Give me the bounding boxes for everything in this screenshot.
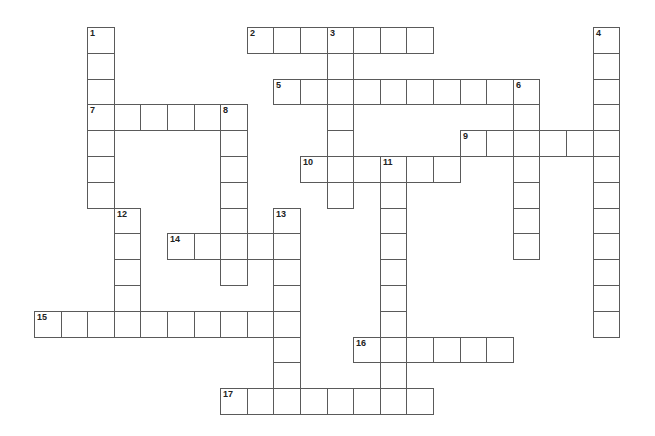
cell-letter-input[interactable] xyxy=(594,234,619,259)
crossword-cell[interactable] xyxy=(273,362,301,389)
cell-letter-input[interactable] xyxy=(88,80,114,104)
crossword-cell[interactable] xyxy=(513,104,540,131)
cell-letter-input[interactable] xyxy=(381,209,406,233)
crossword-cell[interactable]: 14 xyxy=(167,233,195,260)
crossword-cell[interactable] xyxy=(380,337,407,363)
cell-letter-input[interactable] xyxy=(434,157,460,182)
crossword-cell[interactable] xyxy=(220,130,248,157)
crossword-cell[interactable] xyxy=(433,79,461,105)
cell-letter-input[interactable] xyxy=(141,312,167,337)
cell-letter-input[interactable] xyxy=(461,338,486,362)
crossword-cell[interactable]: 12 xyxy=(114,208,141,234)
cell-letter-input[interactable] xyxy=(168,312,194,337)
crossword-cell[interactable] xyxy=(273,259,301,286)
cell-letter-input[interactable] xyxy=(381,183,406,208)
cell-letter-input[interactable] xyxy=(407,157,433,182)
crossword-cell[interactable] xyxy=(406,27,434,54)
crossword-cell[interactable] xyxy=(593,79,620,105)
crossword-cell[interactable] xyxy=(513,130,540,157)
cell-letter-input[interactable] xyxy=(354,157,380,182)
crossword-cell[interactable]: 3 xyxy=(327,27,354,54)
crossword-cell[interactable] xyxy=(380,311,407,338)
crossword-cell[interactable] xyxy=(353,156,381,183)
crossword-cell[interactable] xyxy=(167,104,195,131)
crossword-cell[interactable] xyxy=(460,79,487,105)
crossword-cell[interactable]: 9 xyxy=(460,130,487,157)
crossword-cell[interactable] xyxy=(380,233,407,260)
cell-letter-input[interactable] xyxy=(88,131,114,156)
cell-letter-input[interactable] xyxy=(301,80,327,104)
crossword-cell[interactable]: 5 xyxy=(273,79,301,105)
cell-letter-input[interactable] xyxy=(540,131,566,156)
cell-letter-input[interactable] xyxy=(381,260,406,285)
cell-letter-input[interactable] xyxy=(274,312,300,337)
crossword-cell[interactable] xyxy=(406,337,434,363)
crossword-cell[interactable] xyxy=(273,337,301,363)
crossword-cell[interactable] xyxy=(380,182,407,209)
cell-letter-input[interactable] xyxy=(221,260,247,285)
crossword-cell[interactable] xyxy=(114,285,141,312)
cell-letter-input[interactable] xyxy=(407,389,433,414)
cell-letter-input[interactable] xyxy=(514,183,539,208)
cell-letter-input[interactable] xyxy=(274,389,300,414)
crossword-cell[interactable] xyxy=(327,104,354,131)
crossword-cell[interactable] xyxy=(593,233,620,260)
crossword-cell[interactable] xyxy=(486,337,514,363)
crossword-cell[interactable] xyxy=(486,79,514,105)
cell-letter-input[interactable] xyxy=(221,105,247,130)
cell-letter-input[interactable] xyxy=(514,131,539,156)
crossword-cell[interactable]: 1 xyxy=(87,27,115,54)
crossword-cell[interactable] xyxy=(220,208,248,234)
crossword-cell[interactable] xyxy=(220,156,248,183)
crossword-cell[interactable]: 2 xyxy=(247,27,274,54)
crossword-cell[interactable] xyxy=(593,156,620,183)
crossword-cell[interactable] xyxy=(327,79,354,105)
cell-letter-input[interactable] xyxy=(434,338,460,362)
crossword-cell[interactable] xyxy=(140,104,168,131)
cell-letter-input[interactable] xyxy=(354,80,380,104)
crossword-cell[interactable] xyxy=(220,311,248,338)
crossword-cell[interactable] xyxy=(513,156,540,183)
crossword-cell[interactable] xyxy=(87,156,115,183)
cell-letter-input[interactable] xyxy=(328,183,353,208)
crossword-cell[interactable] xyxy=(327,182,354,209)
cell-letter-input[interactable] xyxy=(381,363,406,388)
crossword-cell[interactable] xyxy=(87,79,115,105)
cell-letter-input[interactable] xyxy=(221,209,247,233)
cell-letter-input[interactable] xyxy=(514,105,539,130)
crossword-cell[interactable] xyxy=(114,259,141,286)
crossword-cell[interactable] xyxy=(353,79,381,105)
crossword-cell[interactable] xyxy=(327,130,354,157)
cell-letter-input[interactable] xyxy=(115,286,140,311)
crossword-cell[interactable] xyxy=(539,130,567,157)
cell-letter-input[interactable] xyxy=(274,260,300,285)
crossword-cell[interactable] xyxy=(300,27,328,54)
crossword-cell[interactable] xyxy=(273,285,301,312)
cell-letter-input[interactable] xyxy=(594,312,619,337)
cell-letter-input[interactable] xyxy=(487,131,513,156)
crossword-cell[interactable] xyxy=(327,53,354,80)
cell-letter-input[interactable] xyxy=(221,234,247,259)
crossword-cell[interactable] xyxy=(273,233,301,260)
crossword-cell[interactable] xyxy=(513,182,540,209)
crossword-cell[interactable] xyxy=(380,79,407,105)
cell-letter-input[interactable] xyxy=(594,28,619,53)
cell-letter-input[interactable] xyxy=(221,157,247,182)
crossword-cell[interactable] xyxy=(593,130,620,157)
cell-letter-input[interactable] xyxy=(274,28,300,53)
crossword-cell[interactable] xyxy=(273,388,301,415)
cell-letter-input[interactable] xyxy=(62,312,87,337)
cell-letter-input[interactable] xyxy=(381,338,406,362)
crossword-cell[interactable] xyxy=(433,337,461,363)
crossword-cell[interactable]: 13 xyxy=(273,208,301,234)
crossword-cell[interactable] xyxy=(513,208,540,234)
cell-letter-input[interactable] xyxy=(328,157,353,182)
cell-letter-input[interactable] xyxy=(594,209,619,233)
cell-letter-input[interactable] xyxy=(594,183,619,208)
crossword-cell[interactable] xyxy=(380,259,407,286)
cell-letter-input[interactable] xyxy=(594,131,619,156)
crossword-cell[interactable] xyxy=(486,130,514,157)
cell-letter-input[interactable] xyxy=(274,80,300,104)
cell-letter-input[interactable] xyxy=(407,338,433,362)
cell-letter-input[interactable] xyxy=(514,157,539,182)
